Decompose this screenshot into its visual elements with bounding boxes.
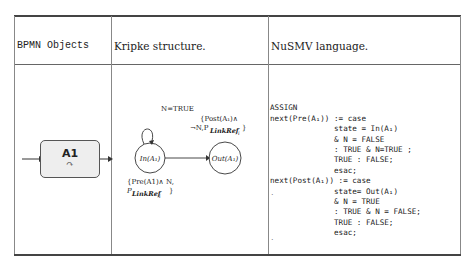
- table-border-left: [14, 16, 15, 254]
- header-nusmv-language: NuSMV language.: [271, 40, 368, 52]
- in-state-label-subsub: i: [159, 193, 161, 199]
- state-out-label: Out(A₁): [212, 155, 239, 163]
- kripke-diagram: In(A₁) Out(A₁) N=TRUE {Post(A₁)∧ ¬N,P Li…: [111, 65, 268, 254]
- transition-close-brace: }: [242, 124, 246, 132]
- code-line: state= Out(A₁): [270, 187, 421, 197]
- code-line: next(Pre(A₁)) := case: [270, 114, 421, 124]
- code-line: esac;: [270, 166, 421, 176]
- table-border-right: [460, 16, 461, 254]
- stray-dot: ·: [271, 190, 274, 199]
- nusmv-code-block: ASSIGNnext(Pre(A₁)) := case state = In(A…: [270, 93, 421, 249]
- transition-label-line1: {Post(A₁)∧: [200, 115, 238, 123]
- column-divider-2: [268, 16, 269, 254]
- loop-icon: ↷: [41, 160, 99, 169]
- self-loop-label: N=TRUE: [161, 105, 194, 113]
- transition-label-subsub: i: [238, 130, 240, 136]
- code-line: state = In(A₁): [270, 124, 421, 134]
- top-rule: [14, 15, 461, 17]
- in-state-close-brace: }: [169, 187, 173, 195]
- code-line: & N = FALSE: [270, 135, 421, 145]
- state-in-label: In(A₁): [139, 155, 161, 163]
- code-line: ASSIGN: [270, 103, 421, 113]
- code-line: : TRUE & N=TRUE ;: [270, 145, 421, 155]
- bottom-rule: [14, 254, 461, 256]
- in-state-label-line1: {Pre(A1)∧ N,: [127, 178, 174, 186]
- code-line: : TRUE & N = FALSE;: [270, 207, 421, 217]
- stray-dot: ·: [271, 235, 274, 244]
- in-state-label-sub: LinkRef: [131, 190, 162, 198]
- code-line: TRUE : FALSE;: [270, 218, 421, 228]
- bpmn-task-a1: A1 ↷: [40, 140, 100, 178]
- transition-label-line2: ¬N,P: [190, 124, 209, 132]
- code-line: TRUE : FALSE;: [270, 155, 421, 165]
- code-line: & N = TRUE: [270, 197, 421, 207]
- transition-label-sub: LinkRef: [209, 127, 240, 135]
- code-line: next(Post(A₁)) := case: [270, 176, 421, 186]
- code-line: esac;: [270, 228, 421, 238]
- header-kripke-structure: Kripke structure.: [114, 40, 206, 52]
- header-bpmn-objects: BPMN Objects: [17, 40, 89, 51]
